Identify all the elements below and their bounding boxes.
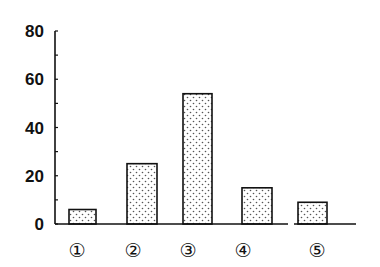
x-tick-label: ③ bbox=[179, 239, 196, 261]
y-tick-label: 40 bbox=[25, 119, 44, 138]
bar-3 bbox=[183, 94, 212, 224]
bar-1 bbox=[69, 210, 96, 224]
x-tick-label: ⑤ bbox=[308, 239, 325, 261]
bar-chart: 020406080 ①②③④⑤ bbox=[0, 0, 380, 267]
x-tick-label: ④ bbox=[234, 239, 251, 261]
bar-2 bbox=[127, 164, 157, 224]
y-tick-label: 80 bbox=[25, 22, 44, 41]
bar-5 bbox=[298, 202, 327, 224]
x-axis: ①②③④⑤ bbox=[55, 224, 356, 261]
bar-4 bbox=[242, 188, 272, 224]
x-tick-label: ② bbox=[124, 239, 141, 261]
y-axis: 020406080 bbox=[25, 22, 58, 234]
x-tick-label: ① bbox=[68, 239, 85, 261]
y-tick-label: 20 bbox=[25, 167, 44, 186]
y-tick-label: 60 bbox=[25, 70, 44, 89]
bars bbox=[69, 94, 327, 224]
y-tick-label: 0 bbox=[35, 215, 44, 234]
